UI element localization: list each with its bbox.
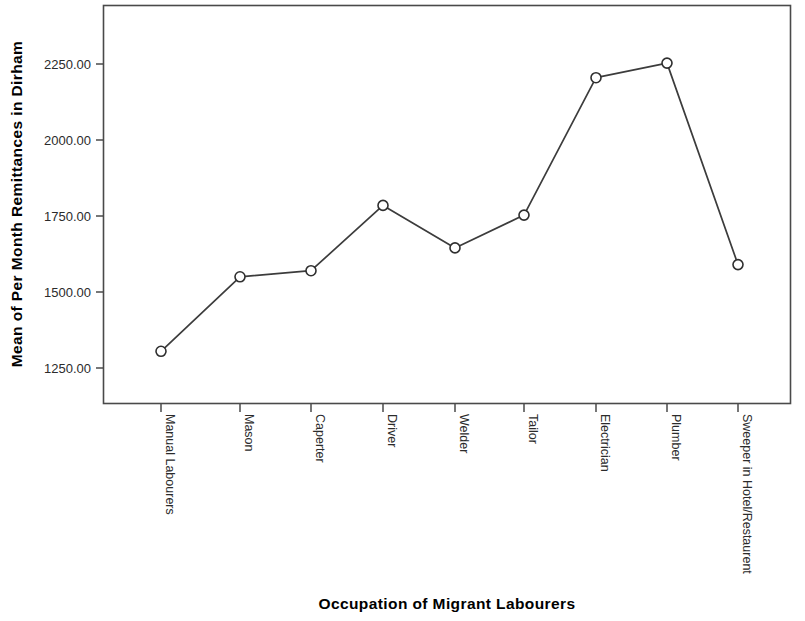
line-chart-figure: 2250.00 2000.00 1750.00 1500.00 1250.00 …	[0, 0, 805, 621]
y-tick-label: 2000.00	[44, 133, 91, 148]
y-tick-group-2: 1750.00	[44, 209, 104, 224]
data-point-marker	[235, 272, 245, 282]
chart-canvas: 2250.00 2000.00 1750.00 1500.00 1250.00 …	[0, 0, 805, 621]
x-axis-title: Occupation of Migrant Labourers	[319, 595, 576, 612]
x-tick-label: Sweeper in Hotel/Restaurent	[740, 414, 754, 574]
x-tick-label: Plumber	[669, 414, 683, 461]
plot-frame	[104, 6, 791, 404]
x-tick-label: Caperter	[313, 414, 327, 463]
x-tick-label: Electrician	[598, 414, 612, 472]
x-tick-label: Manual Labourers	[163, 414, 177, 515]
y-tick-group-3: 1500.00	[44, 285, 104, 300]
y-tick-label: 1250.00	[44, 361, 91, 376]
y-tick-group-1: 2000.00	[44, 133, 104, 148]
y-tick-group-0: 2250.00	[44, 57, 104, 72]
x-tick-label: Welder	[457, 414, 471, 453]
series-line	[161, 63, 738, 351]
x-tick-label: Tailor	[526, 414, 540, 444]
x-axis	[161, 404, 738, 413]
y-tick-label: 1750.00	[44, 209, 91, 224]
data-point-marker	[733, 260, 743, 270]
data-point-marker	[306, 266, 316, 276]
x-axis-category-labels: Manual Labourers Mason Caperter Driver W…	[163, 414, 754, 574]
data-point-marker	[519, 210, 529, 220]
data-point-marker	[450, 243, 460, 253]
data-point-marker	[378, 200, 388, 210]
series-markers	[156, 58, 743, 356]
y-tick-label: 2250.00	[44, 57, 91, 72]
data-point-marker	[591, 73, 601, 83]
y-axis-title: Mean of Per Month Remittances in Dirham	[8, 41, 25, 368]
y-tick-group-4: 1250.00	[44, 361, 104, 376]
data-point-marker	[662, 58, 672, 68]
data-point-marker	[156, 346, 166, 356]
y-tick-label: 1500.00	[44, 285, 91, 300]
x-tick-label: Mason	[242, 414, 256, 452]
x-tick-label: Driver	[385, 414, 399, 447]
y-axis: 2250.00 2000.00 1750.00 1500.00 1250.00	[44, 57, 104, 376]
